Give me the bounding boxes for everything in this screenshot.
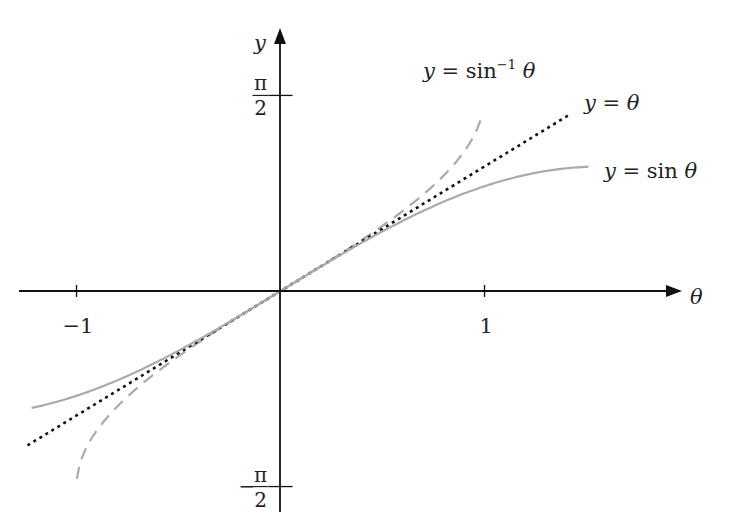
- series-label-identity: y = θ: [583, 91, 640, 115]
- y-axis-label: y: [253, 31, 267, 55]
- chart-canvas: −11π2π2− θ y y = sin−1 θy = θy = sin θ: [0, 0, 729, 526]
- y-tick-label-numerator: π: [254, 71, 267, 95]
- curves-group: [28, 113, 589, 479]
- series-label-sin: y = sin θ: [603, 159, 698, 183]
- x-axis-arrow-icon: [666, 285, 682, 297]
- y-tick-label-numerator: π: [254, 463, 267, 487]
- y-tick-label-denominator: 2: [254, 488, 267, 512]
- y-tick-label-denominator: 2: [254, 96, 267, 120]
- x-axis-label: θ: [690, 285, 703, 309]
- x-tick-label: −1: [63, 314, 94, 338]
- series-sin-curve: [32, 167, 589, 408]
- series-label-asin: y = sin−1 θ: [422, 57, 536, 83]
- y-tick-label-sign: −: [239, 474, 256, 498]
- x-tick-label: 1: [480, 314, 493, 338]
- y-axis-arrow-icon: [274, 28, 286, 44]
